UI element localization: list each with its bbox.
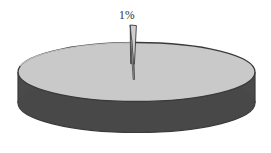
- pie-chart-3d: 1%: [0, 0, 271, 153]
- pie-chart-canvas: 1%: [0, 0, 271, 153]
- pie-slice-major: [18, 43, 255, 102]
- slice-percent-label: 1%: [119, 9, 135, 21]
